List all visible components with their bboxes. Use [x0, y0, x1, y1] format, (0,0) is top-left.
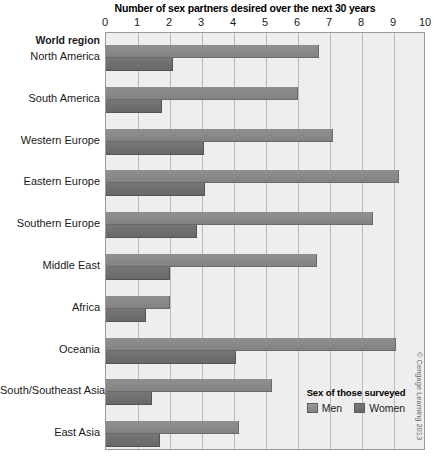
y-label-middle-east: Middle East	[0, 259, 100, 271]
bar-women-eastern-europe	[106, 183, 205, 196]
copyright-notice: © Cengage Learning 2013	[415, 352, 424, 440]
bar-men-middle-east	[106, 254, 317, 267]
legend-item-men: Men	[307, 402, 342, 414]
bar-women-southern-europe	[106, 225, 197, 238]
bar-women-south-southeast-asia	[106, 392, 152, 405]
bar-men-eastern-europe	[106, 170, 399, 183]
x-tick-10: 10	[419, 16, 431, 28]
x-tick-6: 6	[294, 16, 300, 28]
bar-men-north-america	[106, 45, 319, 58]
bar-women-middle-east	[106, 267, 170, 280]
bar-men-southern-europe	[106, 212, 373, 225]
legend-title: Sex of those surveyed	[292, 387, 420, 398]
y-axis-title: World region	[0, 34, 100, 46]
legend-item-women: Women	[354, 402, 405, 414]
legend: Sex of those surveyed MenWomen	[292, 387, 420, 414]
bar-women-oceania	[106, 351, 236, 364]
x-tick-5: 5	[262, 16, 268, 28]
x-tick-3: 3	[198, 16, 204, 28]
bar-women-north-america	[106, 58, 173, 71]
x-tick-7: 7	[326, 16, 332, 28]
bar-women-east-asia	[106, 434, 160, 447]
y-label-south-southeast-asia: South/Southeast Asia	[0, 384, 100, 396]
bar-men-western-europe	[106, 129, 333, 142]
y-label-south-america: South America	[0, 92, 100, 104]
x-tick-2: 2	[166, 16, 172, 28]
legend-label-men: Men	[322, 402, 342, 414]
x-tick-8: 8	[358, 16, 364, 28]
y-label-africa: Africa	[0, 301, 100, 313]
x-tick-4: 4	[230, 16, 236, 28]
legend-entries: MenWomen	[292, 402, 420, 414]
bar-women-western-europe	[106, 142, 204, 155]
y-label-east-asia: East Asia	[0, 426, 100, 438]
x-tick-1: 1	[134, 16, 140, 28]
bar-women-south-america	[106, 100, 162, 113]
bar-men-south-america	[106, 87, 298, 100]
legend-label-women: Women	[369, 402, 405, 414]
y-label-oceania: Oceania	[0, 343, 100, 355]
x-tick-0: 0	[102, 16, 108, 28]
legend-swatch-women-icon	[354, 403, 365, 413]
bar-men-oceania	[106, 338, 396, 351]
bar-men-south-southeast-asia	[106, 379, 272, 392]
bar-men-east-asia	[106, 421, 239, 434]
y-label-western-europe: Western Europe	[0, 134, 100, 146]
bar-chart: Number of sex partners desired over the …	[0, 0, 439, 460]
x-tick-9: 9	[390, 16, 396, 28]
chart-title: Number of sex partners desired over the …	[60, 2, 430, 14]
y-label-eastern-europe: Eastern Europe	[0, 175, 100, 187]
legend-swatch-men-icon	[307, 403, 318, 413]
y-label-southern-europe: Southern Europe	[0, 217, 100, 229]
bar-women-africa	[106, 309, 146, 322]
bar-men-africa	[106, 296, 170, 309]
y-label-north-america: North America	[0, 50, 100, 62]
